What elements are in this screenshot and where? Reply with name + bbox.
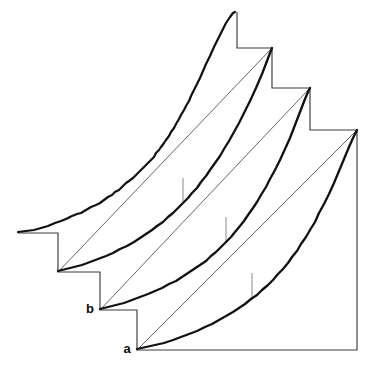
point-label-a: a	[123, 341, 131, 356]
chord-group	[58, 48, 357, 350]
chord-line-second	[58, 48, 272, 272]
chord-line-third	[100, 88, 310, 310]
deviation-tick-group	[183, 178, 252, 298]
point-label-b: b	[86, 301, 94, 316]
diagram-canvas: a b	[0, 0, 367, 367]
chord-line-fourth	[137, 130, 357, 350]
diagram-svg: a b	[0, 0, 367, 367]
curve-outer-jagged	[18, 12, 235, 232]
